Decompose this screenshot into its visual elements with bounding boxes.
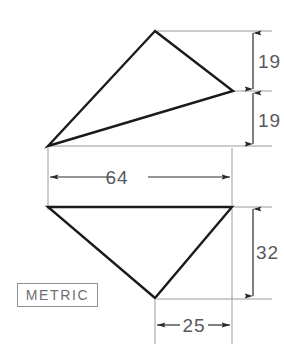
dimension-text-25: 25 — [182, 315, 205, 336]
lower-triangle — [48, 207, 232, 298]
technical-drawing-canvas: 19 19 64 32 25 METRIC — [0, 0, 284, 356]
metric-note: METRIC — [18, 284, 98, 307]
dimension-text-upper-19: 19 — [258, 51, 281, 72]
dimension-lines — [50, 33, 253, 325]
metric-note-label: METRIC — [26, 287, 89, 303]
part-outlines — [48, 31, 233, 298]
engineering-drawing-svg: 19 19 64 32 25 METRIC — [0, 0, 284, 356]
dimension-texts: 19 19 64 32 25 — [105, 51, 281, 336]
dimension-text-32: 32 — [256, 242, 279, 263]
upper-triangle — [48, 31, 233, 146]
dimension-text-64: 64 — [105, 167, 128, 188]
dimension-text-lower-19: 19 — [258, 110, 281, 131]
